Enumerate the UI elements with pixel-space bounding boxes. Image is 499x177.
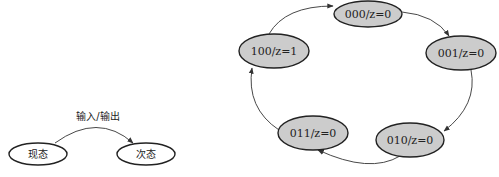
state-node-001: 001/z=0 <box>426 36 496 70</box>
counter-state-diagram: 000/z=0 001/z=0 010/z=0 011/z=0 100/z=1 <box>239 1 496 164</box>
state-node-100: 100/z=1 <box>239 34 309 68</box>
state-label: 010/z=0 <box>387 134 434 147</box>
transition-label: 输入/输出 <box>76 110 119 122</box>
transition-011-to-100 <box>251 68 279 130</box>
state-node-011: 011/z=0 <box>278 116 348 150</box>
state-label: 011/z=0 <box>290 127 337 140</box>
state-diagram-canvas: 输入/输出 现态 次态 000/z=0 001/z=0 010/z=0 <box>0 0 499 177</box>
state-label: 001/z=0 <box>438 47 485 60</box>
transition-001-to-010 <box>444 70 472 131</box>
generic-state-transition: 输入/输出 现态 次态 <box>9 110 175 165</box>
state-label: 100/z=1 <box>251 45 298 58</box>
present-state-node: 现态 <box>9 143 67 165</box>
transition-arrow <box>55 128 133 144</box>
transition-100-to-000 <box>269 6 333 34</box>
next-state-node: 次态 <box>117 143 175 165</box>
state-node-000: 000/z=0 <box>334 1 402 27</box>
state-node-010: 010/z=0 <box>376 123 444 157</box>
next-state-label: 次态 <box>136 148 156 160</box>
present-state-label: 现态 <box>28 148 48 160</box>
state-label: 000/z=0 <box>345 8 392 21</box>
transition-000-to-001 <box>402 12 449 36</box>
